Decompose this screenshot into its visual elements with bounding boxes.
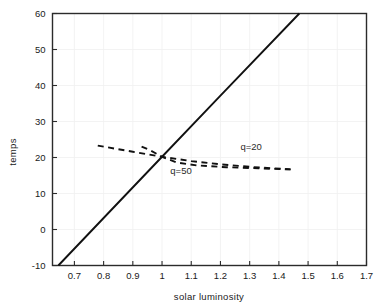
y-tick-label: 50 bbox=[35, 44, 46, 55]
x-tick-label: 1.6 bbox=[331, 270, 344, 281]
x-tick-label: 1.7 bbox=[360, 270, 373, 281]
x-axis-label: solar luminosity bbox=[174, 291, 244, 302]
x-tick-label: 0.7 bbox=[68, 270, 81, 281]
annotation-q=20: q=20 bbox=[240, 141, 261, 152]
y-tick-label: 40 bbox=[35, 80, 46, 91]
y-tick-label: 60 bbox=[35, 8, 46, 19]
y-tick-label: 10 bbox=[35, 188, 46, 199]
x-tick-label: 1.3 bbox=[243, 270, 256, 281]
y-axis-label: temps bbox=[7, 138, 18, 165]
annotation-q=50: q=50 bbox=[170, 165, 191, 176]
chart-canvas: 0.70.80.911.11.21.31.41.51.61.7 -1001020… bbox=[0, 0, 387, 308]
y-tick-label: -10 bbox=[32, 260, 46, 271]
chart-background bbox=[0, 0, 387, 308]
y-tick-label: 30 bbox=[35, 116, 46, 127]
y-tick-label: 0 bbox=[40, 224, 45, 235]
x-tick-label: 0.9 bbox=[126, 270, 139, 281]
y-tick-label: 20 bbox=[35, 152, 46, 163]
x-tick-label: 1.5 bbox=[301, 270, 314, 281]
x-tick-label: 1.1 bbox=[185, 270, 198, 281]
x-tick-label: 1 bbox=[159, 270, 164, 281]
x-tick-label: 0.8 bbox=[97, 270, 110, 281]
x-tick-label: 1.4 bbox=[272, 270, 285, 281]
chart-page: 0.70.80.911.11.21.31.41.51.61.7 -1001020… bbox=[0, 0, 387, 308]
x-tick-label: 1.2 bbox=[214, 270, 227, 281]
